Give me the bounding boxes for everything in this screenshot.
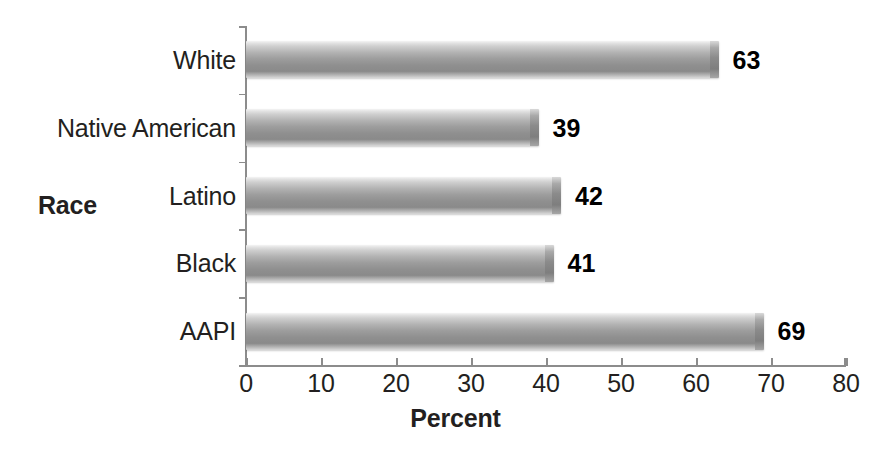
x-axis-tick-label: 0 — [239, 371, 253, 396]
x-axis-tick — [771, 358, 773, 366]
x-axis-tick — [396, 358, 398, 366]
bar-value-label: 69 — [778, 319, 806, 344]
bar-latino[interactable] — [246, 177, 561, 214]
y-axis-tick — [239, 162, 246, 164]
bar-black[interactable] — [246, 245, 554, 282]
x-axis-tick-label: 50 — [607, 371, 634, 396]
x-axis-tick — [546, 358, 548, 366]
x-axis-tick-label: 30 — [457, 371, 484, 396]
category-label-latino: Latino — [169, 184, 236, 209]
x-axis-tick — [471, 358, 473, 366]
category-label-black: Black — [176, 251, 236, 276]
bar-value-label: 42 — [575, 184, 603, 209]
bar-white[interactable] — [246, 41, 719, 78]
x-axis-tick — [696, 358, 698, 366]
x-axis-tick-label: 70 — [757, 371, 784, 396]
bar-aapi[interactable] — [246, 313, 764, 350]
category-label-aapi: AAPI — [180, 319, 236, 344]
x-axis-tick-label: 40 — [532, 371, 559, 396]
category-label-native-american: Native American — [57, 116, 236, 141]
y-axis-tick — [239, 297, 246, 299]
x-axis-tick — [846, 358, 848, 366]
x-axis-tick-label: 60 — [682, 371, 709, 396]
y-axis-tick — [239, 94, 246, 96]
category-label-white: White — [173, 48, 236, 73]
x-axis-title-text: Percent — [410, 406, 500, 431]
bar-value-label: 63 — [733, 48, 761, 73]
x-axis-tick — [246, 358, 248, 366]
x-axis-tick — [621, 358, 623, 366]
x-axis-tick-label: 80 — [832, 371, 859, 396]
y-axis-tick — [239, 365, 246, 367]
bar-native-american[interactable] — [246, 109, 539, 146]
bar-chart: WhiteNative AmericanLatinoBlackAAPI 6339… — [0, 0, 881, 450]
bar-value-label: 41 — [568, 251, 596, 276]
y-axis-category-labels: WhiteNative AmericanLatinoBlackAAPI — [0, 0, 236, 450]
y-axis-tick — [239, 229, 246, 231]
x-axis-tick-label: 20 — [382, 371, 409, 396]
x-axis-title: Percent — [0, 406, 881, 431]
y-axis-title: Race — [38, 193, 97, 218]
bar-value-label: 39 — [553, 116, 581, 141]
x-axis-tick — [321, 358, 323, 366]
x-axis-tick-label: 10 — [307, 371, 334, 396]
plot-area: 6339424169 — [246, 26, 846, 365]
